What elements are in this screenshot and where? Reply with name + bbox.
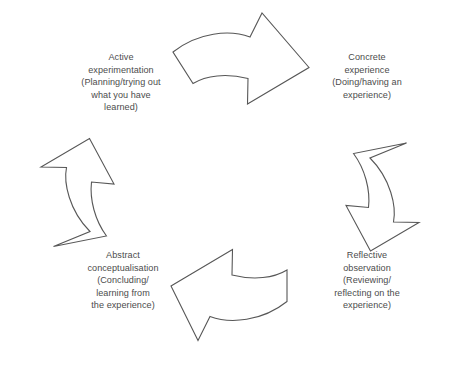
- label-active-experimentation: Active experimentation (Planning/trying …: [58, 51, 184, 114]
- label-abstract-conceptualisation: Abstract conceptualisation (Concluding/ …: [56, 249, 190, 312]
- kolb-learning-cycle-diagram: Active experimentation (Planning/trying …: [0, 0, 469, 383]
- label-concrete-experience: Concrete experience (Doing/having an exp…: [306, 51, 428, 101]
- label-reflective-observation: Reflective observation (Reviewing/ refle…: [306, 249, 428, 312]
